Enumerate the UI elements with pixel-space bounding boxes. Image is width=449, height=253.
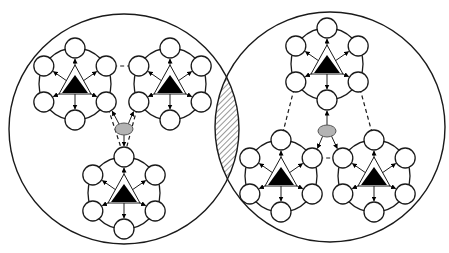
cluster-L2 [129, 38, 211, 130]
node-circle [96, 56, 116, 76]
node-circle [364, 130, 384, 150]
diagram-canvas [0, 0, 449, 253]
node-circle [348, 72, 368, 92]
node-circle [65, 38, 85, 58]
node-circle [286, 72, 306, 92]
node-circle [302, 148, 322, 168]
hub-arrow [332, 136, 338, 148]
cluster-L3 [83, 147, 165, 239]
node-circle [302, 184, 322, 204]
node-circle [114, 147, 134, 167]
cluster-R3 [333, 130, 415, 222]
node-circle [395, 184, 415, 204]
cluster-R2 [240, 130, 322, 222]
node-circle [240, 148, 260, 168]
node-circle [129, 56, 149, 76]
cluster-L1 [34, 38, 116, 130]
node-circle [34, 56, 54, 76]
node-circle [317, 18, 337, 38]
node-circle [286, 36, 306, 56]
hub-arrow [128, 112, 133, 124]
node-circle [191, 56, 211, 76]
node-circle [160, 110, 180, 130]
cluster-R1 [286, 18, 368, 110]
node-circle [145, 165, 165, 185]
node-circle [317, 90, 337, 110]
node-circle [160, 38, 180, 58]
network-diagram [0, 0, 449, 253]
hub-arrow [317, 136, 322, 148]
node-circle [364, 202, 384, 222]
node-circle [191, 92, 211, 112]
node-circle [129, 92, 149, 112]
links-layer [106, 66, 374, 158]
node-circle [271, 202, 291, 222]
node-circle [34, 92, 54, 112]
node-circle [83, 201, 103, 221]
node-circle [271, 130, 291, 150]
node-circle [96, 92, 116, 112]
hub-ellipse-left [115, 123, 133, 135]
node-circle [65, 110, 85, 130]
node-circle [83, 165, 103, 185]
node-circle [348, 36, 368, 56]
node-circle [333, 148, 353, 168]
node-circle [333, 184, 353, 204]
node-circle [114, 219, 134, 239]
node-circle [395, 148, 415, 168]
node-circle [240, 184, 260, 204]
hub-ellipse-right [318, 125, 336, 137]
node-circle [145, 201, 165, 221]
